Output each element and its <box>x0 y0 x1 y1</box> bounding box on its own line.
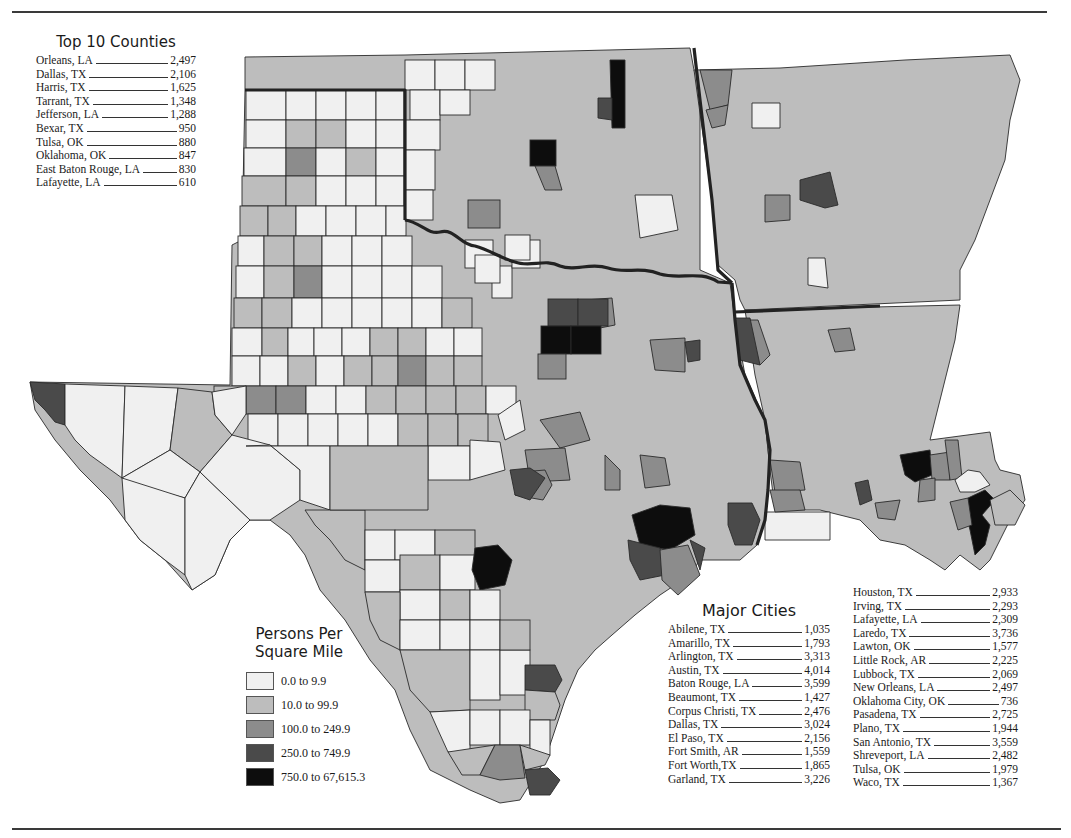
list-item: Baton Rouge, LA3,599 <box>668 677 830 691</box>
list-item: Austin, TX4,014 <box>668 664 830 678</box>
list-item: Lawton, OK1,577 <box>853 640 1018 654</box>
top-counties-list: Orleans, LA2,497 Dallas, TX2,106 Harris,… <box>36 54 196 190</box>
map-legend: Persons Per Square Mile 0.0 to 9.9 10.0 … <box>246 625 446 789</box>
list-item: Waco, TX1,367 <box>853 776 1018 790</box>
top-counties-title: Top 10 Counties <box>36 33 196 51</box>
list-item: Lafayette, LA610 <box>36 176 196 190</box>
list-item: Garland, TX3,226 <box>668 773 830 787</box>
list-item: San Antonio, TX3,559 <box>853 736 1018 750</box>
list-item: Fort Worth,TX1,865 <box>668 759 830 773</box>
legend-item: 0.0 to 9.9 <box>246 669 446 693</box>
list-item: East Baton Rouge, LA830 <box>36 163 196 177</box>
list-item: Dallas, TX2,106 <box>36 68 196 82</box>
top-counties-panel: Top 10 Counties Orleans, LA2,497 Dallas,… <box>36 33 196 190</box>
major-cities-panel: Major Cities Abilene, TX1,035 Amarillo, … <box>668 601 830 786</box>
list-item: Tarrant, TX1,348 <box>36 95 196 109</box>
legend-swatch <box>246 672 274 690</box>
legend-item: 10.0 to 99.9 <box>246 693 446 717</box>
list-item: Beaumont, TX1,427 <box>668 691 830 705</box>
list-item: Oklahoma, OK847 <box>36 149 196 163</box>
major-cities-list-1: Abilene, TX1,035 Amarillo, TX1,793 Arlin… <box>668 623 830 786</box>
list-item: Little Rock, AR2,225 <box>853 654 1018 668</box>
list-item: Lafayette, LA2,309 <box>853 613 1018 627</box>
list-item: New Orleans, LA2,497 <box>853 681 1018 695</box>
list-item: Amarillo, TX1,793 <box>668 637 830 651</box>
list-item: Corpus Christi, TX2,476 <box>668 705 830 719</box>
list-item: Tulsa, OK1,979 <box>853 763 1018 777</box>
major-cities-list-2: Houston, TX2,933 Irving, TX2,293 Lafayet… <box>853 586 1018 790</box>
list-item: Bexar, TX950 <box>36 122 196 136</box>
legend-item: 250.0 to 749.9 <box>246 741 446 765</box>
list-item: Shreveport, LA2,482 <box>853 749 1018 763</box>
list-item: Tulsa, OK880 <box>36 136 196 150</box>
major-cities-panel-2: Houston, TX2,933 Irving, TX2,293 Lafayet… <box>853 586 1018 790</box>
list-item: Houston, TX2,933 <box>853 586 1018 600</box>
list-item: Irving, TX2,293 <box>853 600 1018 614</box>
major-cities-title: Major Cities <box>668 601 830 620</box>
legend-swatch <box>246 768 274 786</box>
legend-swatch <box>246 744 274 762</box>
legend-swatch <box>246 696 274 714</box>
list-item: Abilene, TX1,035 <box>668 623 830 637</box>
list-item: Jefferson, LA1,288 <box>36 108 196 122</box>
legend-title: Persons Per Square Mile <box>244 625 354 661</box>
list-item: Fort Smith, AR1,559 <box>668 745 830 759</box>
list-item: Harris, TX1,625 <box>36 81 196 95</box>
list-item: Plano, TX1,944 <box>853 722 1018 736</box>
list-item: Orleans, LA2,497 <box>36 54 196 68</box>
list-item: Dallas, TX3,024 <box>668 718 830 732</box>
list-item: Oklahoma City, OK736 <box>853 695 1018 709</box>
list-item: El Paso, TX2,156 <box>668 732 830 746</box>
legend-swatch <box>246 720 274 738</box>
legend-item: 750.0 to 67,615.3 <box>246 765 446 789</box>
list-item: Lubbock, TX2,069 <box>853 668 1018 682</box>
list-item: Arlington, TX3,313 <box>668 650 830 664</box>
list-item: Pasadena, TX2,725 <box>853 708 1018 722</box>
legend-item: 100.0 to 249.9 <box>246 717 446 741</box>
list-item: Laredo, TX3,736 <box>853 627 1018 641</box>
